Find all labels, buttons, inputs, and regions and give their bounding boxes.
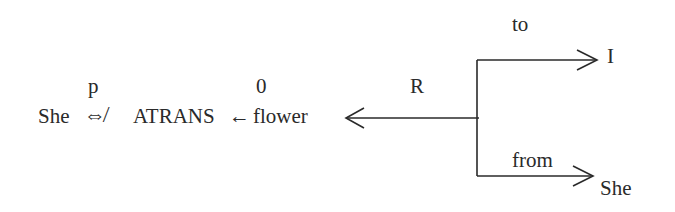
- to-value: I: [607, 46, 614, 67]
- object-mode-label: 0: [256, 76, 267, 97]
- actor: She: [38, 106, 70, 127]
- object: flower: [253, 106, 308, 127]
- recipient-label: R: [410, 76, 424, 97]
- from-value: She: [600, 178, 632, 199]
- from-label: from: [512, 150, 553, 171]
- primitive-act: ATRANS: [133, 106, 215, 127]
- to-label: to: [512, 14, 528, 35]
- two-way-link-icon: ⇎: [84, 104, 106, 126]
- object-arrow-icon: ←: [229, 106, 250, 127]
- actor-mode-label: p: [88, 76, 99, 97]
